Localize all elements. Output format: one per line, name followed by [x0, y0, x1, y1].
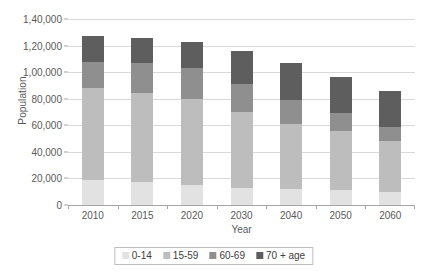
bar-segment[interactable]: [280, 100, 302, 124]
bar-segment[interactable]: [379, 192, 401, 205]
bar-segment[interactable]: [131, 182, 153, 205]
bar-segment[interactable]: [181, 185, 203, 205]
bar-segment[interactable]: [280, 189, 302, 205]
y-tick-label: 60,000: [31, 120, 62, 131]
bar-segment[interactable]: [280, 63, 302, 100]
x-tick-mark: [414, 205, 415, 209]
bar-stack[interactable]: [280, 63, 302, 205]
legend-label: 60-69: [219, 250, 245, 261]
legend-swatch-icon: [163, 252, 170, 259]
y-tick-label: 40,000: [31, 146, 62, 157]
bar-segment[interactable]: [82, 62, 104, 89]
bar-segment[interactable]: [82, 36, 104, 61]
x-tick-mark: [266, 205, 267, 209]
bar-slot: [217, 19, 267, 205]
bar-stack[interactable]: [131, 38, 153, 205]
legend-swatch-icon: [256, 252, 263, 259]
x-tick-label: 2020: [167, 210, 217, 221]
y-tick-label: 1,40,000: [23, 14, 62, 25]
bar-stack[interactable]: [181, 42, 203, 205]
bars-layer: [68, 19, 415, 205]
y-tick-label: 0: [56, 200, 62, 211]
bar-slot: [365, 19, 415, 205]
chart-legend: 0-1415-5960-6970 + age: [114, 247, 313, 265]
y-tick-label: 1,20,000: [23, 40, 62, 51]
legend-label: 15-59: [173, 250, 199, 261]
legend-swatch-icon: [209, 252, 216, 259]
bar-slot: [266, 19, 316, 205]
legend-item[interactable]: 15-59: [163, 250, 199, 261]
legend-swatch-icon: [122, 252, 129, 259]
bar-slot: [167, 19, 217, 205]
x-axis-labels: 2010201520202030204020502060: [68, 210, 415, 221]
bar-stack[interactable]: [231, 51, 253, 205]
x-tick-label: 2030: [217, 210, 267, 221]
legend-label: 70 + age: [266, 250, 305, 261]
y-tick-label: 1,00,000: [23, 67, 62, 78]
plot-area: 020,00040,00060,00080,0001,00,0001,20,00…: [68, 19, 415, 205]
y-tick-label: 20,000: [31, 173, 62, 184]
x-tick-label: 2050: [316, 210, 366, 221]
x-tick-mark: [167, 205, 168, 209]
bar-stack[interactable]: [330, 77, 352, 205]
y-axis-title: Population: [17, 41, 28, 161]
bar-stack[interactable]: [82, 36, 104, 205]
bar-segment[interactable]: [280, 124, 302, 189]
bar-segment[interactable]: [131, 38, 153, 63]
bar-segment[interactable]: [181, 68, 203, 99]
bar-segment[interactable]: [379, 127, 401, 142]
bar-segment[interactable]: [181, 99, 203, 185]
x-tick-mark: [118, 205, 119, 209]
bar-stack[interactable]: [379, 91, 401, 205]
population-stacked-bar-chart: Population 020,00040,00060,00080,0001,00…: [0, 0, 427, 276]
y-tick-label: 80,000: [31, 93, 62, 104]
bar-segment[interactable]: [330, 113, 352, 130]
bar-segment[interactable]: [231, 112, 253, 188]
bar-segment[interactable]: [231, 188, 253, 205]
bar-segment[interactable]: [330, 77, 352, 113]
x-axis-title: Year: [68, 224, 415, 235]
bar-segment[interactable]: [131, 63, 153, 94]
bar-slot: [316, 19, 366, 205]
bar-slot: [68, 19, 118, 205]
legend-item[interactable]: 0-14: [122, 250, 152, 261]
x-tick-label: 2015: [118, 210, 168, 221]
bar-segment[interactable]: [82, 88, 104, 180]
bar-segment[interactable]: [181, 42, 203, 69]
x-tick-mark: [365, 205, 366, 209]
x-tick-label: 2040: [266, 210, 316, 221]
bar-segment[interactable]: [379, 91, 401, 127]
bar-segment[interactable]: [379, 141, 401, 191]
x-tick-label: 2010: [68, 210, 118, 221]
x-tick-label: 2060: [365, 210, 415, 221]
bar-segment[interactable]: [231, 84, 253, 112]
bar-segment[interactable]: [330, 131, 352, 191]
bar-segment[interactable]: [131, 93, 153, 182]
legend-item[interactable]: 70 + age: [256, 250, 305, 261]
bar-segment[interactable]: [82, 180, 104, 205]
bar-segment[interactable]: [231, 51, 253, 84]
bar-slot: [118, 19, 168, 205]
legend-label: 0-14: [132, 250, 152, 261]
legend-item[interactable]: 60-69: [209, 250, 245, 261]
bar-segment[interactable]: [330, 190, 352, 205]
x-tick-mark: [68, 205, 69, 209]
x-tick-mark: [217, 205, 218, 209]
x-tick-mark: [316, 205, 317, 209]
